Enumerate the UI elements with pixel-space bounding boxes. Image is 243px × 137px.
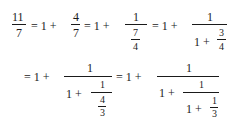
denominator-lead: 1 + <box>66 88 82 100</box>
fraction-bar <box>125 24 147 25</box>
inner2-numerator: 4 <box>100 95 105 105</box>
inner-numerator: 3 <box>219 28 224 38</box>
inner-denominator-lead: 1 + <box>186 103 202 115</box>
fraction-numerator: 1 <box>87 62 93 74</box>
fraction-numerator: 1 <box>186 62 192 74</box>
inner-fraction-bar <box>183 92 219 93</box>
equals-one-plus: = 1 + <box>116 71 142 83</box>
fraction-bar <box>71 24 80 25</box>
equals-one-plus: = 1 + <box>24 71 50 83</box>
inner-fraction-bar <box>131 39 140 40</box>
fraction-denominator: 7 <box>73 27 79 39</box>
inner-numerator: 1 <box>100 80 105 90</box>
inner2-denominator: 3 <box>212 109 217 119</box>
fraction-denominator: 7 <box>16 27 22 39</box>
fraction-bar <box>192 24 227 25</box>
inner-fraction-bar <box>91 92 112 93</box>
fraction-bar <box>64 76 112 77</box>
denominator-lead: 1 + <box>194 36 210 48</box>
equals-one-plus: = 1 + <box>84 20 110 32</box>
inner-denominator: 4 <box>133 42 138 52</box>
denominator-lead: 1 + <box>159 87 175 99</box>
inner2-numerator: 1 <box>212 96 217 106</box>
inner2-denominator: 3 <box>100 108 105 118</box>
inner-numerator: 1 <box>199 80 204 90</box>
equals-one-plus: = 1 + <box>31 20 57 32</box>
fraction-numerator: 4 <box>73 11 79 23</box>
fraction-bar <box>12 24 26 25</box>
fraction-numerator: 11 <box>12 11 24 23</box>
fraction-bar <box>157 76 219 77</box>
equals-one-plus: = 1 + <box>152 20 178 32</box>
inner-numerator: 7 <box>133 28 138 38</box>
inner-denominator: 4 <box>219 42 224 52</box>
inner-fraction-bar <box>217 39 226 40</box>
fraction-numerator: 1 <box>133 11 139 23</box>
fraction-numerator: 1 <box>207 11 213 23</box>
